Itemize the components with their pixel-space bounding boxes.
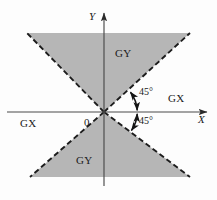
region-label-gy-lower: GY — [76, 155, 92, 166]
x-axis-label: X — [198, 114, 205, 125]
y-axis-label: Y — [89, 11, 95, 22]
angle-label-upper: 45° — [139, 87, 153, 97]
figure-container: GY GY GX GX 0 X Y 45° 45° — [0, 0, 217, 200]
angle-arc-lower — [131, 114, 137, 131]
region-label-gy-upper: GY — [115, 48, 131, 59]
region-label-gx-left: GX — [20, 118, 36, 129]
origin-label: 0 — [84, 117, 90, 128]
shaded-region-lower — [30, 112, 190, 177]
shaded-region-upper — [27, 33, 190, 112]
angle-label-lower: 45° — [139, 116, 153, 126]
coordinate-diagram — [0, 0, 217, 200]
region-label-gx-right: GX — [168, 93, 184, 104]
angle-arc-upper — [131, 92, 138, 110]
